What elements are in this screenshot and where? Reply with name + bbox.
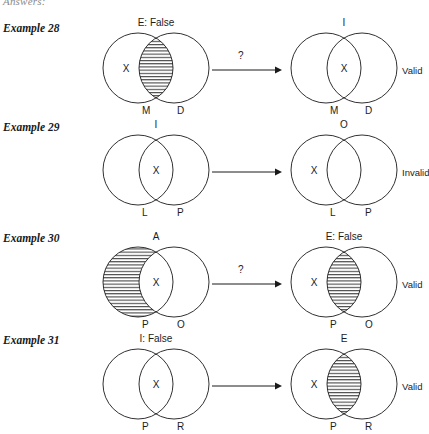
- implication-arrow: ?: [212, 62, 282, 80]
- venn-diagram-left: XILP: [100, 130, 212, 208]
- venn-right-label: R: [177, 421, 184, 432]
- implication-arrow: [212, 378, 282, 396]
- venn-left-label: P: [142, 319, 149, 330]
- verdict-label: Invalid: [402, 167, 429, 178]
- venn-top-label: E: [306, 333, 382, 344]
- venn-top-label: E: False: [306, 231, 382, 242]
- x-marker: X: [311, 165, 318, 176]
- verdict-label: Valid: [402, 381, 422, 392]
- venn-right-label: O: [365, 319, 373, 330]
- x-marker: X: [341, 63, 348, 74]
- venn-left-label: P: [330, 421, 337, 432]
- venn-top-label: A: [118, 231, 194, 242]
- venn-right-label: R: [365, 421, 372, 432]
- verdict-label: Valid: [402, 65, 422, 76]
- venn-left-label: M: [142, 105, 150, 116]
- x-marker: X: [123, 63, 130, 74]
- venn-top-label: I: [118, 119, 194, 130]
- question-mark-label: ?: [238, 50, 244, 61]
- example-row: XE: FalseMDXIMD?Valid: [0, 18, 422, 118]
- example-row: XILPXOLPInvalid: [0, 120, 422, 220]
- verdict-label: Valid: [402, 279, 422, 290]
- example-row: XI: FalsePRXEPRValid: [0, 334, 422, 434]
- example-row: XAPOXE: FalsePO?Valid: [0, 232, 422, 332]
- venn-top-label: I: [306, 17, 382, 28]
- venn-right-label: D: [365, 105, 372, 116]
- venn-diagram-right: XE: FalsePO: [288, 242, 400, 320]
- venn-left-label: P: [142, 421, 149, 432]
- x-marker: X: [311, 379, 318, 390]
- venn-top-label: O: [306, 119, 382, 130]
- venn-diagram-right: XIMD: [288, 28, 400, 106]
- venn-diagram-left: XI: FalsePR: [100, 344, 212, 422]
- venn-right-label: O: [177, 319, 185, 330]
- venn-left-label: L: [142, 207, 148, 218]
- x-marker: X: [311, 277, 318, 288]
- venn-left-label: L: [330, 207, 336, 218]
- venn-diagram-left: XAPO: [100, 242, 212, 320]
- venn-right-label: P: [177, 207, 184, 218]
- venn-left-label: P: [330, 319, 337, 330]
- venn-top-label: E: False: [118, 17, 194, 28]
- venn-left-label: M: [330, 105, 338, 116]
- venn-right-label: P: [365, 207, 372, 218]
- venn-diagram-right: XEPR: [288, 344, 400, 422]
- x-marker: X: [153, 379, 160, 390]
- x-marker: X: [153, 165, 160, 176]
- x-marker: X: [153, 277, 160, 288]
- venn-top-label: I: False: [118, 333, 194, 344]
- venn-right-label: D: [177, 105, 184, 116]
- question-mark-label: ?: [238, 264, 244, 275]
- implication-arrow: ?: [212, 276, 282, 294]
- page-title: Answers:: [3, 0, 46, 7]
- venn-diagram-right: XOLP: [288, 130, 400, 208]
- implication-arrow: [212, 164, 282, 182]
- venn-diagram-left: XE: FalseMD: [100, 28, 212, 106]
